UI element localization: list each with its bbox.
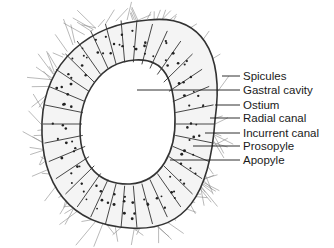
label-radial-canal: Radial canal	[243, 112, 306, 125]
label-spicules: Spicules	[243, 70, 286, 83]
label-prosopyle: Prosopyle	[243, 140, 294, 153]
label-gastral-cavity: Gastral cavity	[243, 84, 313, 97]
label-apopyle: Apopyle	[243, 154, 285, 167]
label-ostium: Ostium	[243, 99, 279, 112]
label-incurrent-canal: Incurrent canal	[243, 127, 319, 140]
